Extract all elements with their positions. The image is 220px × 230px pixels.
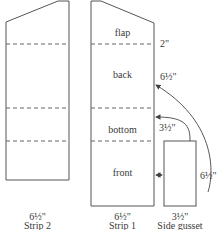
strip-1-name: Strip 1 xyxy=(91,220,154,230)
dimension-back: 6½" xyxy=(160,71,177,82)
strip-2-outline xyxy=(6,1,69,180)
side-gusset-outline xyxy=(164,141,196,206)
dimension-bottom: 3½" xyxy=(159,122,176,133)
dimension-flap: 2" xyxy=(160,38,169,49)
side-gusset-name: Side gusset xyxy=(150,220,210,230)
dimension-gusset-height: 6½" xyxy=(200,170,217,181)
section-label-front: front xyxy=(91,167,154,178)
strip-2-name: Strip 2 xyxy=(6,220,69,230)
section-label-bottom: bottom xyxy=(91,124,154,135)
section-label-flap: flap xyxy=(91,27,154,38)
section-label-back: back xyxy=(91,69,154,80)
